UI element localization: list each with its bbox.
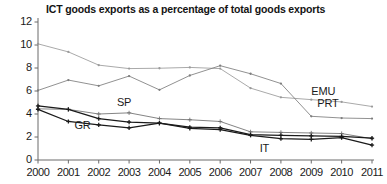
data-point-marker <box>128 75 130 77</box>
data-point-marker <box>189 66 191 68</box>
data-point-marker <box>280 82 282 84</box>
data-point-marker <box>128 67 130 69</box>
series-label-gr: GR <box>74 119 90 131</box>
data-point-marker <box>340 117 342 119</box>
data-point-marker <box>310 98 312 100</box>
series-label-sp: SP <box>117 96 131 108</box>
data-point-marker <box>37 89 39 91</box>
data-point-marker <box>67 51 69 53</box>
data-point-marker <box>340 101 342 103</box>
data-point-marker <box>219 65 221 67</box>
data-point-marker <box>98 64 100 66</box>
series-label-prt: PRT <box>317 97 338 109</box>
data-point-marker <box>371 105 373 107</box>
data-point-marker <box>37 43 39 45</box>
series-label-emu: EMU <box>311 85 335 97</box>
data-point-marker <box>371 117 373 119</box>
data-point-marker <box>158 89 160 91</box>
data-point-marker <box>158 67 160 69</box>
data-point-marker <box>310 115 312 117</box>
data-point-marker <box>249 87 251 89</box>
data-point-marker <box>280 96 282 98</box>
data-point-marker <box>67 79 69 81</box>
data-point-marker <box>189 74 191 76</box>
series-label-it: IT <box>260 142 269 154</box>
data-point-marker <box>98 85 100 87</box>
data-point-marker <box>219 67 221 69</box>
data-point-marker <box>249 73 251 75</box>
